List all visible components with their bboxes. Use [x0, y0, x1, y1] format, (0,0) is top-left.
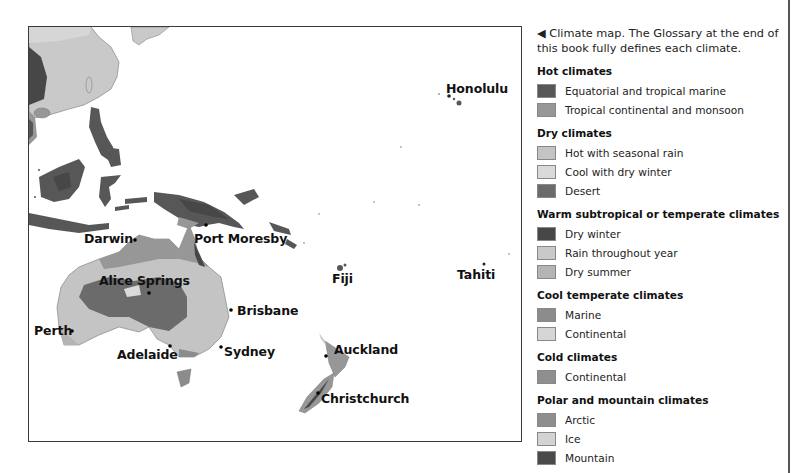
legend-swatch	[537, 308, 556, 322]
legend-label: Rain throughout year	[565, 247, 678, 259]
legend-item: Continental	[537, 324, 782, 343]
city-label-port-moresby: Port Moresby	[194, 231, 287, 246]
caption-arrow-icon: ◀	[537, 27, 546, 40]
legend-item: Continental	[537, 367, 782, 386]
legend-label: Continental	[565, 328, 626, 340]
page-divider-line	[788, 0, 790, 473]
map-legend: ◀ Climate map. The Glossary at the end o…	[537, 27, 782, 473]
city-label-brisbane: Brisbane	[237, 303, 298, 318]
legend-group-dry: Dry climates Hot with seasonal rain Cool…	[537, 127, 782, 200]
city-label-alice-springs: Alice Springs	[99, 273, 190, 288]
legend-label: Continental	[565, 371, 626, 383]
city-label-honolulu: Honolulu	[446, 81, 508, 96]
legend-swatch	[537, 327, 556, 341]
legend-swatch	[537, 165, 556, 179]
legend-item: Marine	[537, 305, 782, 324]
legend-label: Equatorial and tropical marine	[565, 85, 726, 97]
legend-item: Cool with dry winter	[537, 162, 782, 181]
legend-swatch	[537, 227, 556, 241]
climate-map: Honolulu Darwin Port Moresby Alice Sprin…	[28, 26, 522, 442]
city-label-tahiti: Tahiti	[457, 267, 495, 282]
legend-swatch	[537, 265, 556, 279]
legend-label: Hot with seasonal rain	[565, 147, 683, 159]
legend-swatch	[537, 184, 556, 198]
legend-item: Dry summer	[537, 262, 782, 281]
legend-group-title: Warm subtropical or temperate climates	[537, 208, 782, 220]
legend-swatch	[537, 246, 556, 260]
legend-label: Ice	[565, 433, 580, 445]
legend-group-title: Polar and mountain climates	[537, 394, 782, 406]
legend-group-hot: Hot climates Equatorial and tropical mar…	[537, 65, 782, 119]
city-label-christchurch: Christchurch	[321, 391, 409, 406]
legend-group-warm: Warm subtropical or temperate climates D…	[537, 208, 782, 281]
city-label-adelaide: Adelaide	[117, 347, 178, 362]
legend-group-cold: Cold climates Continental	[537, 351, 782, 386]
city-marker-port-moresby	[204, 223, 208, 227]
legend-item: Rain throughout year	[537, 243, 782, 262]
legend-item: Tropical continental and monsoon	[537, 100, 782, 119]
legend-swatch	[537, 432, 556, 446]
legend-item: Ice	[537, 429, 782, 448]
city-marker-darwin	[133, 238, 137, 242]
legend-item: Dry winter	[537, 224, 782, 243]
legend-label: Marine	[565, 309, 601, 321]
city-marker-auckland	[324, 354, 328, 358]
legend-label: Desert	[565, 185, 600, 197]
legend-item: Equatorial and tropical marine	[537, 81, 782, 100]
legend-label: Cool with dry winter	[565, 166, 672, 178]
legend-group-title: Hot climates	[537, 65, 782, 77]
legend-label: Mountain	[565, 452, 614, 464]
legend-label: Tropical continental and monsoon	[565, 104, 744, 116]
legend-label: Arctic	[565, 414, 595, 426]
legend-label: Dry winter	[565, 228, 621, 240]
legend-item: Hot with seasonal rain	[537, 143, 782, 162]
legend-swatch	[537, 370, 556, 384]
legend-group-title: Dry climates	[537, 127, 782, 139]
city-label-perth: Perth	[34, 323, 72, 338]
city-label-darwin: Darwin	[84, 231, 133, 246]
legend-label: Dry summer	[565, 266, 631, 278]
legend-swatch	[537, 146, 556, 160]
legend-group-title: Cool temperate climates	[537, 289, 782, 301]
legend-item: Arctic	[537, 410, 782, 429]
legend-swatch	[537, 451, 556, 465]
legend-swatch	[537, 103, 556, 117]
city-label-sydney: Sydney	[224, 344, 275, 359]
legend-group-title: Cold climates	[537, 351, 782, 363]
legend-item: Desert	[537, 181, 782, 200]
legend-group-cool-temperate: Cool temperate climates Marine Continent…	[537, 289, 782, 343]
legend-swatch	[537, 84, 556, 98]
legend-swatch	[537, 413, 556, 427]
legend-group-polar-mountain: Polar and mountain climates Arctic Ice M…	[537, 394, 782, 467]
legend-item: Mountain	[537, 448, 782, 467]
map-caption: ◀ Climate map. The Glossary at the end o…	[537, 27, 782, 56]
city-marker-alice-springs	[147, 291, 151, 295]
city-marker-sydney	[219, 345, 223, 349]
caption-text: Climate map. The Glossary at the end of …	[537, 27, 779, 55]
landmass-tasmania	[177, 369, 191, 387]
city-label-auckland: Auckland	[334, 342, 398, 357]
city-label-fiji: Fiji	[332, 271, 353, 286]
city-marker-christchurch	[316, 391, 320, 395]
city-marker-brisbane	[229, 308, 233, 312]
